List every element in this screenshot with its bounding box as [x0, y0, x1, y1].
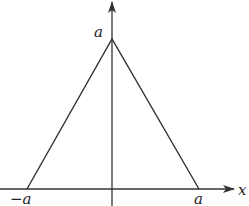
- right-x-label: a: [194, 190, 203, 206]
- left-x-label: −a: [10, 190, 32, 206]
- apex-label: a: [94, 23, 103, 41]
- x-axis-label: x: [238, 181, 247, 199]
- triangle-function-line: [27, 39, 199, 189]
- triangle-graph: a −a a x: [0, 0, 249, 206]
